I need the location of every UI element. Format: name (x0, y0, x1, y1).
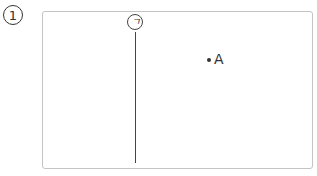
point-a-label: A (214, 51, 224, 67)
line-label-circle: ㄱ (127, 14, 143, 30)
line-label-text: ㄱ (131, 17, 140, 27)
diagram-frame (42, 11, 313, 169)
point-a-dot (207, 58, 211, 62)
vertical-line (135, 32, 137, 163)
problem-number-text: 1 (9, 8, 17, 23)
problem-number: 1 (3, 5, 23, 25)
